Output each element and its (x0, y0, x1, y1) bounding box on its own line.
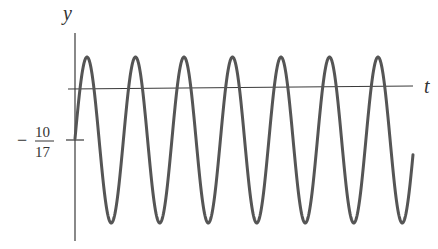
y-axis-label: y (61, 2, 72, 25)
oscillation-curve (75, 57, 413, 223)
tick-label-sign: − (17, 130, 27, 150)
tick-label-numerator: 10 (35, 124, 50, 140)
oscillation-chart: y t − 10 17 (0, 0, 438, 249)
tick-label-denominator: 17 (35, 144, 51, 160)
t-axis-label: t (424, 75, 430, 97)
